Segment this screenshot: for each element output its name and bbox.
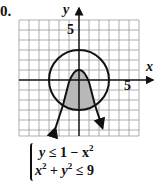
x-tick-label: 5 xyxy=(124,78,131,94)
operator-rhs: ≤ 9 xyxy=(72,163,94,178)
y-tick-label: 5 xyxy=(67,22,74,38)
problem-number: 0. xyxy=(0,3,11,20)
x-axis-label: x xyxy=(146,59,153,75)
plus: + xyxy=(47,163,62,178)
operator: ≤ xyxy=(49,145,57,160)
y-axis-label: y xyxy=(63,2,69,18)
var-x: x xyxy=(35,163,42,178)
inequality-2: x2 + y2 ≤ 9 xyxy=(35,161,94,179)
rhs: 1 − x xyxy=(60,145,89,160)
exponent: 2 xyxy=(89,143,94,153)
inequality-1: y ≤ 1 − x2 xyxy=(39,143,93,161)
var-y: y xyxy=(39,145,45,160)
